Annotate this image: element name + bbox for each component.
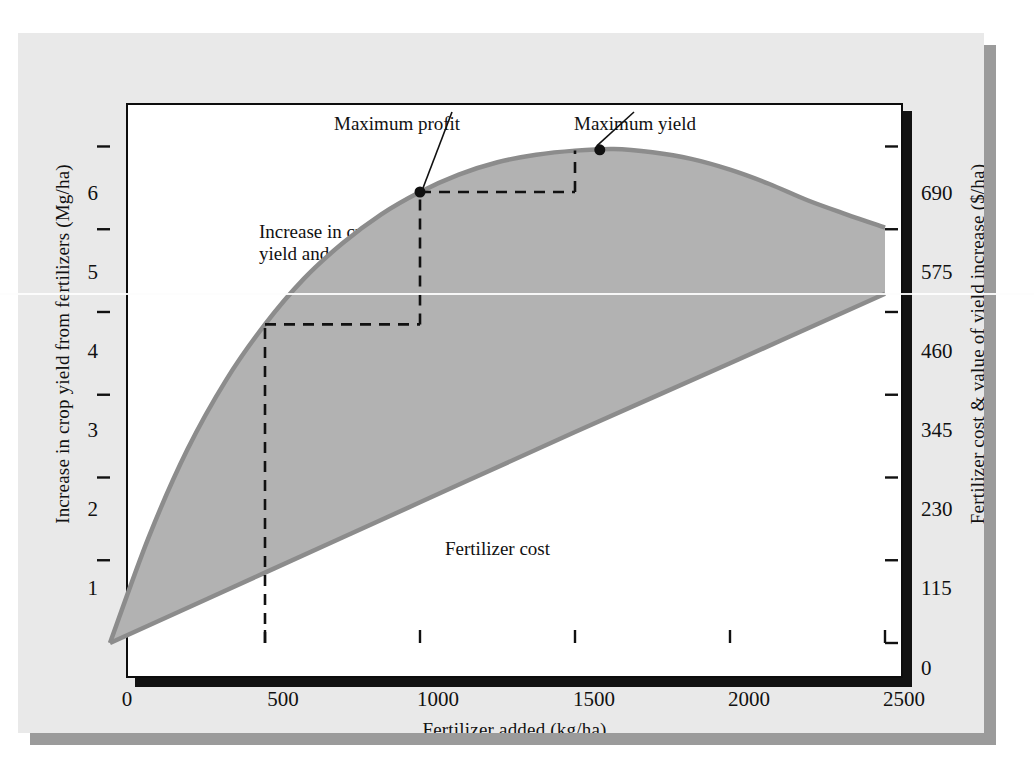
x-tick-1500: 1500 (549, 687, 639, 712)
figure-plate-shadow-bottom (30, 733, 996, 745)
plot-frame (126, 103, 903, 678)
x-tick-2000: 2000 (704, 687, 794, 712)
x-tick-0: 0 (82, 687, 172, 712)
annotation-maximum-yield: Maximum yield (574, 113, 696, 135)
plot-frame-shadow-right (903, 111, 912, 686)
annotation-profit: Profit (499, 345, 549, 369)
figure-plate-shadow-right (984, 45, 996, 745)
y-right-tick-230: 230 (921, 497, 981, 522)
y-left-tick-4: 4 (58, 339, 98, 364)
y-left-tick-5: 5 (58, 260, 98, 285)
y-right-tick-460: 460 (921, 339, 981, 364)
annotation-fertilizer-cost: Fertilizer cost (445, 538, 550, 560)
figure-plate: Increase in crop yield from fertilizers … (18, 33, 984, 733)
x-tick-500: 500 (238, 687, 328, 712)
y-left-tick-3: 3 (58, 418, 98, 443)
y-right-tick-0: 0 (921, 656, 981, 681)
y-right-tick-690: 690 (921, 181, 981, 206)
scan-line-artifact (0, 293, 1034, 295)
y-left-tick-1: 1 (58, 576, 98, 601)
y-right-tick-115: 115 (921, 576, 981, 601)
x-tick-2500: 2500 (859, 687, 949, 712)
plot-frame-shadow-bottom (135, 678, 912, 687)
y-left-tick-2: 2 (58, 497, 98, 522)
y-left-tick-6: 6 (58, 181, 98, 206)
annotation-increase-in-crop-yield-and-value: Increase in crop yield and value (259, 221, 409, 266)
y-right-tick-345: 345 (921, 418, 981, 443)
x-tick-1000: 1000 (393, 687, 483, 712)
y-right-tick-575: 575 (921, 260, 981, 285)
annotation-maximum-profit: Maximum profit (334, 113, 460, 135)
